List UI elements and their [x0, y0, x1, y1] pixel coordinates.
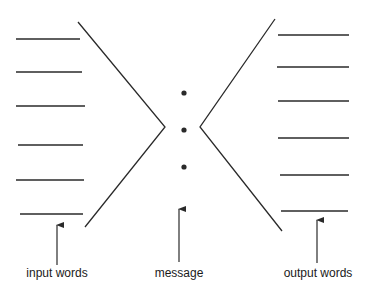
- decoder-chevron: [200, 19, 282, 231]
- output-words-label: output words: [284, 266, 353, 280]
- message-dot: [181, 127, 186, 132]
- message-label: message: [155, 266, 204, 280]
- encoder-decoder-diagram: [0, 0, 374, 296]
- input-words-label: input words: [26, 266, 87, 280]
- message-dot: [181, 164, 186, 169]
- label-arrows: [57, 209, 317, 265]
- output-word-lines: [277, 35, 349, 211]
- encoder-chevron: [78, 22, 165, 227]
- message-dots: [181, 90, 186, 169]
- input-word-lines: [16, 39, 85, 214]
- message-dot: [181, 90, 186, 95]
